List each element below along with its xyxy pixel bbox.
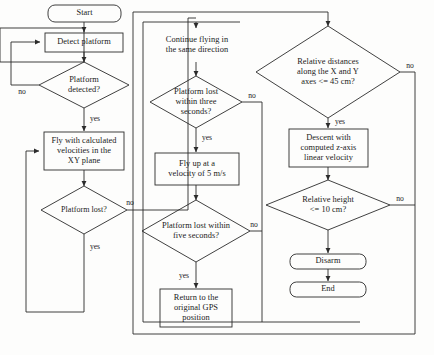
node-platform-detected-shape bbox=[39, 62, 129, 108]
node-platform-lost-shape bbox=[41, 186, 127, 234]
node-return-gps-shape bbox=[160, 289, 232, 327]
node-descent-shape bbox=[289, 129, 368, 167]
node-relative-height-shape bbox=[266, 180, 390, 230]
node-end-shape bbox=[290, 282, 366, 297]
node-lost-five-seconds-shape bbox=[142, 200, 250, 262]
node-fly-up-shape bbox=[155, 153, 239, 185]
flowchart-graphics bbox=[0, 0, 434, 355]
node-lost-three-seconds-shape bbox=[150, 76, 242, 128]
node-disarm-shape bbox=[290, 254, 366, 269]
node-relative-distances-shape bbox=[256, 26, 400, 118]
node-fly-xy-shape bbox=[44, 132, 124, 170]
flowchart-canvas: Start Detect platform Platform detected?… bbox=[0, 0, 434, 355]
node-start-shape bbox=[48, 5, 121, 22]
